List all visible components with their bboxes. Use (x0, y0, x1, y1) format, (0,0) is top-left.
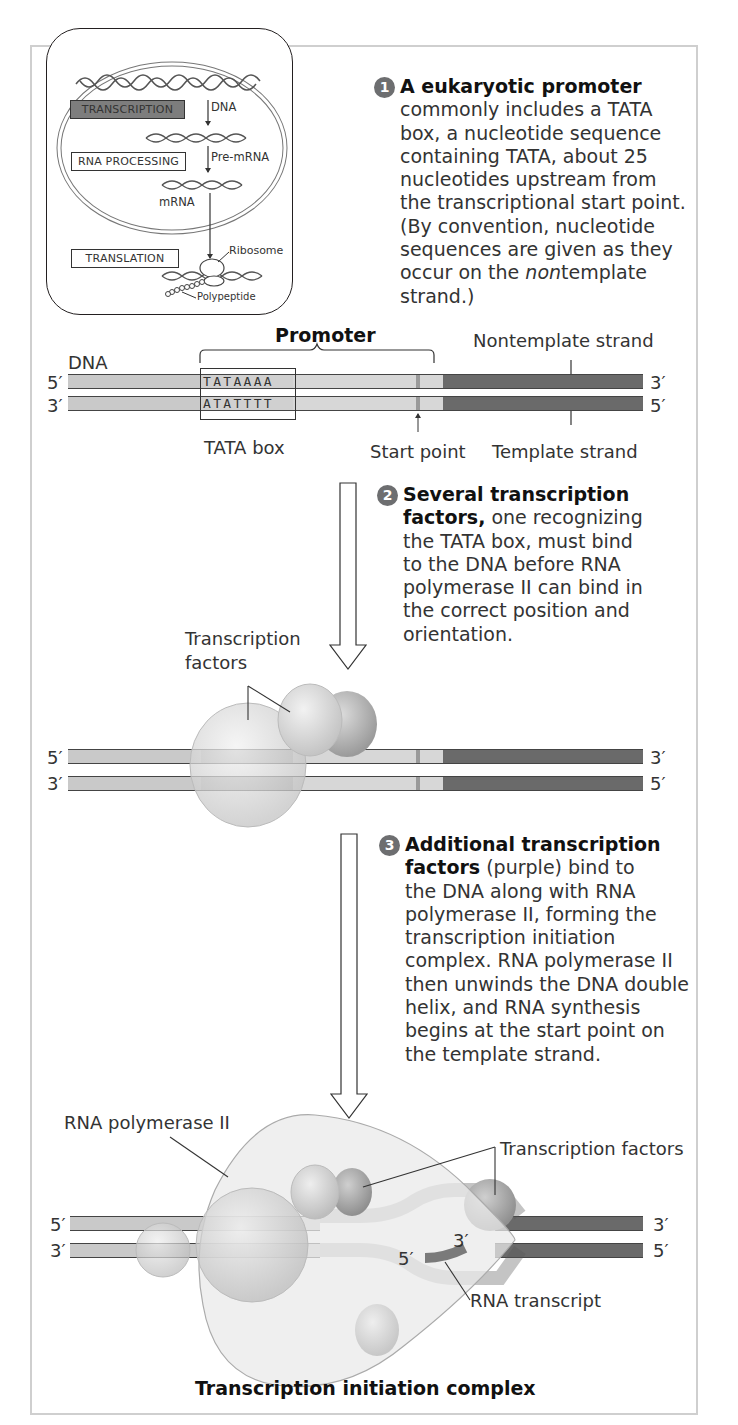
figure-caption: Transcription initiation complex (195, 1377, 536, 1399)
rna-3-end-label: 3′ (453, 1230, 469, 1251)
strand-end-label: 3′ (653, 1214, 669, 1235)
strand-end-label: 3′ (50, 1240, 66, 1261)
rna-transcript-label: RNA transcript (470, 1290, 601, 1311)
strand-end-label: 5′ (50, 1214, 66, 1235)
strand-end-label: 5′ (653, 1240, 669, 1261)
rna-5-end-label: 5′ (398, 1248, 414, 1269)
initiation-complex-icon (0, 0, 738, 1425)
